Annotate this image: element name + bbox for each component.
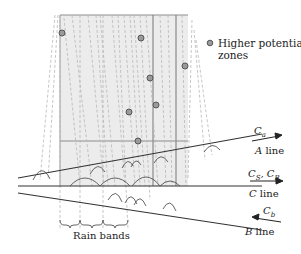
legend-label: Higher potential zones <box>218 37 301 61</box>
zone-marker <box>59 30 65 36</box>
b-line-current-label: Cb <box>263 205 275 219</box>
c-line-label: C line <box>249 188 279 199</box>
zone-marker <box>182 63 188 69</box>
rain-bands-label: Rain bands <box>73 230 130 241</box>
c-line-current-label: CS, CB <box>248 168 280 182</box>
legend-marker-icon <box>207 40 213 46</box>
zone-marker <box>147 75 153 81</box>
zone-marker <box>138 35 144 41</box>
legend-label-line1: Higher potential <box>218 37 301 49</box>
a-line-label: A line <box>255 145 284 156</box>
rain-bands-brace <box>60 220 128 228</box>
zone-marker <box>153 102 159 108</box>
zone-marker <box>126 109 132 115</box>
zone-marker <box>135 138 141 144</box>
b-line-label: B line <box>245 226 274 237</box>
legend-label-line2: zones <box>218 49 301 61</box>
a-line-current-label: Ca <box>254 125 266 139</box>
